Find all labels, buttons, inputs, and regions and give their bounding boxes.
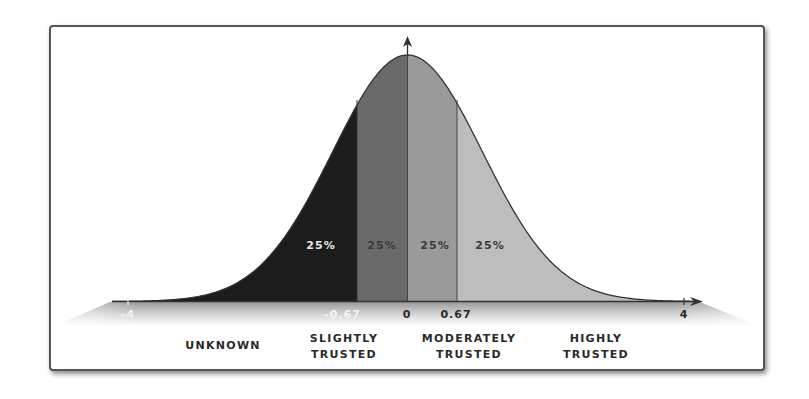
- percent-label-slightly: 25%: [367, 239, 396, 252]
- category-moderately-line1: MODERATELY: [422, 332, 516, 345]
- category-slightly-line2: TRUSTED: [311, 348, 377, 361]
- normal-distribution-diagram: 25% 25% 25% 25% -4 -0.67 0 0.67 4 UNKNOW…: [0, 0, 809, 399]
- percent-label-unknown: 25%: [306, 239, 335, 252]
- percent-label-moderately: 25%: [420, 239, 449, 252]
- tick-label-neg4: -4: [121, 308, 135, 321]
- category-highly-line2: TRUSTED: [563, 348, 629, 361]
- category-slightly-line1: SLIGHTLY: [310, 332, 378, 345]
- segment-moderately-trusted: [407, 40, 457, 302]
- percent-label-highly: 25%: [475, 239, 504, 252]
- curve-fill: [100, 40, 717, 302]
- segment-highly-trusted: [457, 40, 717, 302]
- category-unknown: UNKNOWN: [185, 339, 261, 352]
- tick-label-pos4: 4: [680, 308, 689, 321]
- category-moderately-line2: TRUSTED: [436, 348, 502, 361]
- segment-slightly-trusted: [357, 40, 407, 302]
- category-highly-line1: HIGHLY: [570, 332, 623, 345]
- tick-label-zero: 0: [403, 308, 412, 321]
- segment-unknown: [100, 40, 357, 302]
- tick-label-pos067: 0.67: [440, 308, 471, 321]
- tick-label-neg067: -0.67: [324, 308, 361, 321]
